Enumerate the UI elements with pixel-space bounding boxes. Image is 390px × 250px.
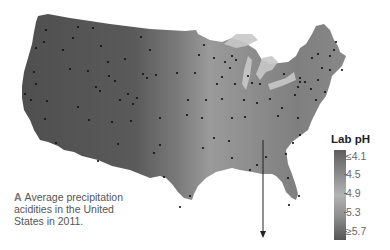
figure-caption: AAverage precipitation acidities in the … — [14, 191, 144, 227]
legend-tick: 4.9 — [346, 187, 361, 199]
caption-text: Average precipitation acidities in the U… — [14, 191, 123, 227]
legend-tick: 4.5 — [346, 168, 361, 180]
us-land-shape — [22, 14, 346, 200]
caption-letter: A — [14, 191, 22, 203]
legend-title: Lab pH — [331, 133, 370, 145]
legend-color-bar — [334, 150, 346, 240]
legend-tick: ≤4.1 — [346, 150, 366, 162]
legend-tick: 5.3 — [346, 206, 361, 218]
legend-tick: ≥5.7 — [346, 225, 366, 237]
